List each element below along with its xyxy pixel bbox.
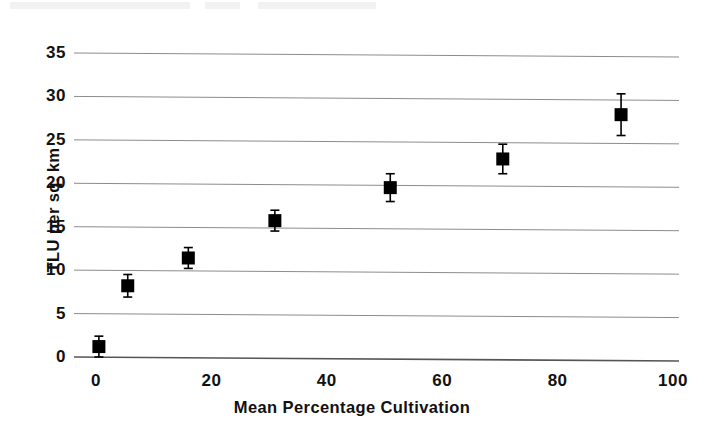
gridlines: [74, 53, 679, 361]
marker-square: [384, 181, 397, 194]
gridline-35: [74, 53, 679, 57]
data-point: [384, 174, 397, 202]
marker-square: [496, 152, 509, 165]
data-points-layer: [92, 94, 627, 357]
scatter-plot: [0, 0, 704, 443]
x-tick-label-0: 0: [91, 371, 101, 391]
gridline-25: [74, 140, 679, 144]
data-point: [182, 248, 195, 269]
marker-square: [92, 340, 105, 353]
x-tick-label-60: 60: [432, 371, 452, 391]
gridline-20: [74, 183, 679, 187]
marker-square: [121, 279, 134, 292]
y-tick-label-35: 35: [6, 43, 66, 63]
y-tick-label-30: 30: [6, 86, 66, 106]
gridline-15: [74, 227, 679, 231]
y-tick-label-0: 0: [6, 347, 66, 367]
x-tick-label-100: 100: [658, 371, 688, 391]
gridline-30: [74, 96, 679, 100]
gridline-0: [74, 357, 679, 361]
data-point: [92, 336, 105, 357]
x-tick-label-80: 80: [548, 371, 568, 391]
x-tick-label-40: 40: [317, 371, 337, 391]
marker-square: [182, 251, 195, 264]
gridline-10: [74, 270, 679, 274]
data-point: [121, 274, 134, 297]
y-axis-title: TLU per sq. km: [44, 110, 63, 310]
data-point: [496, 144, 509, 174]
x-tick-label-20: 20: [201, 371, 221, 391]
marker-square: [268, 214, 281, 227]
marker-square: [615, 108, 628, 121]
x-axis-title: Mean Percentage Cultivation: [0, 398, 704, 417]
figure-container: 05101520253035020406080100 Mean Percenta…: [0, 0, 704, 443]
gridline-5: [74, 314, 679, 318]
